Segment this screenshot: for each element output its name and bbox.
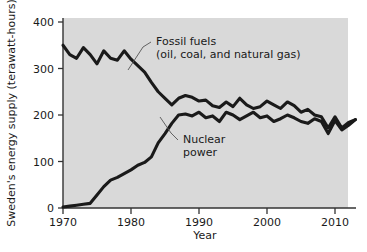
nuclear-power-label-line2: power xyxy=(183,146,217,159)
nuclear-power-label-line1: Nuclear xyxy=(183,133,226,146)
y-tick-label: 200 xyxy=(33,109,54,122)
x-tick-label: 1970 xyxy=(49,216,77,229)
y-tick-label: 0 xyxy=(47,202,54,215)
y-tick-label: 100 xyxy=(33,156,54,169)
x-tick-label: 2000 xyxy=(253,216,281,229)
x-tick-label: 2010 xyxy=(321,216,349,229)
y-tick-label: 400 xyxy=(33,16,54,29)
fossil-fuels-label-line1: Fossil fuels xyxy=(156,35,216,48)
y-tick-label: 300 xyxy=(33,63,54,76)
x-axis-title: Year xyxy=(192,229,217,242)
fossil-fuels-label-line2: (oil, coal, and natural gas) xyxy=(156,48,300,61)
energy-supply-line-chart: 0100200300400 19701980199020002010 Fossi… xyxy=(0,0,367,252)
x-tick-label: 1990 xyxy=(185,216,213,229)
x-tick-label: 1980 xyxy=(117,216,145,229)
y-axis-title: Sweden's energy supply (terawatt-hours) xyxy=(5,0,18,227)
